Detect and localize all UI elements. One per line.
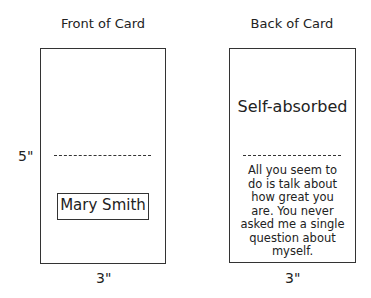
fold-line	[54, 155, 151, 156]
name-label-box: Mary Smith	[57, 193, 149, 220]
front-title: Front of Card	[33, 16, 173, 31]
back-heading: Self-absorbed	[230, 97, 355, 116]
back-message: All you seem to do is talk about how gre…	[230, 164, 355, 259]
back-title: Back of Card	[222, 16, 362, 31]
fold-line	[243, 155, 341, 156]
front-width-dimension-label: 3"	[96, 270, 111, 286]
front-card: Mary Smith	[40, 48, 166, 264]
back-width-dimension-label: 3"	[285, 270, 300, 286]
height-dimension-label: 5"	[18, 148, 33, 164]
back-card: Self-absorbed All you seem to do is talk…	[229, 48, 356, 263]
